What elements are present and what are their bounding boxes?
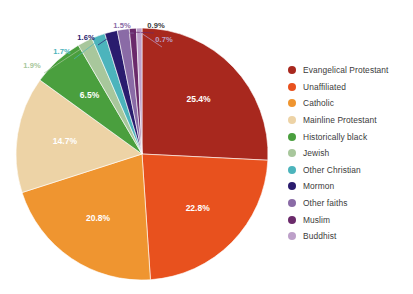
legend-color-swatch-icon — [288, 99, 296, 107]
legend-color-swatch-icon — [288, 216, 296, 224]
slice-value-label: 20.8% — [86, 213, 111, 223]
slice-value-label: 0.7% — [155, 35, 173, 44]
legend-item-label: Muslim — [303, 215, 330, 225]
slice-value-label: 0.9% — [147, 21, 165, 30]
legend-item[interactable]: Mainline Protestant — [288, 112, 413, 129]
pie-slices-group — [16, 28, 268, 280]
legend-item[interactable]: Catholic — [288, 95, 413, 112]
legend-item[interactable]: Jewish — [288, 145, 413, 162]
legend-color-swatch-icon — [288, 83, 296, 91]
pie-chart-svg: 25.4%22.8%20.8%14.7%6.5%1.9%1.7%1.6%1.5%… — [6, 12, 278, 284]
legend-item-label: Other Christian — [303, 165, 361, 175]
legend-item-label: Jewish — [303, 148, 329, 158]
legend-item-label: Other faiths — [303, 198, 348, 208]
legend-color-swatch-icon — [288, 149, 296, 157]
slice-value-label: 25.4% — [187, 94, 212, 104]
chart-legend: Evangelical ProtestantUnaffiliatedCathol… — [288, 62, 413, 245]
legend-item[interactable]: Other Christian — [288, 162, 413, 179]
legend-color-swatch-icon — [288, 133, 296, 141]
pie-slice[interactable] — [142, 154, 268, 280]
slice-value-label: 1.5% — [113, 21, 131, 30]
legend-item[interactable]: Evangelical Protestant — [288, 62, 413, 79]
legend-item-label: Unaffiliated — [303, 82, 346, 92]
legend-color-swatch-icon — [288, 166, 296, 174]
legend-item-label: Historically black — [303, 132, 367, 142]
slice-value-label: 22.8% — [186, 203, 211, 213]
legend-color-swatch-icon — [288, 232, 296, 240]
legend-item-label: Evangelical Protestant — [303, 65, 389, 75]
legend-item-label: Buddhist — [303, 231, 336, 241]
slice-value-label: 1.7% — [53, 47, 71, 56]
legend-item[interactable]: Unaffiliated — [288, 79, 413, 96]
legend-item[interactable]: Buddhist — [288, 228, 413, 245]
pie-chart-figure: 25.4%22.8%20.8%14.7%6.5%1.9%1.7%1.6%1.5%… — [0, 0, 413, 294]
slice-value-label: 1.6% — [77, 33, 95, 42]
legend-color-swatch-icon — [288, 199, 296, 207]
legend-item-label: Mormon — [303, 181, 334, 191]
slice-value-label: 14.7% — [53, 136, 78, 146]
slice-value-label: 6.5% — [80, 90, 100, 100]
legend-item[interactable]: Muslim — [288, 211, 413, 228]
legend-item-label: Catholic — [303, 98, 334, 108]
pie-chart-area: 25.4%22.8%20.8%14.7%6.5%1.9%1.7%1.6%1.5%… — [6, 12, 278, 284]
legend-color-swatch-icon — [288, 116, 296, 124]
legend-item[interactable]: Other faiths — [288, 195, 413, 212]
slice-value-label: 1.9% — [23, 61, 41, 70]
legend-color-swatch-icon — [288, 66, 296, 74]
legend-color-swatch-icon — [288, 182, 296, 190]
legend-item[interactable]: Mormon — [288, 178, 413, 195]
legend-item[interactable]: Historically black — [288, 128, 413, 145]
legend-item-label: Mainline Protestant — [303, 115, 377, 125]
